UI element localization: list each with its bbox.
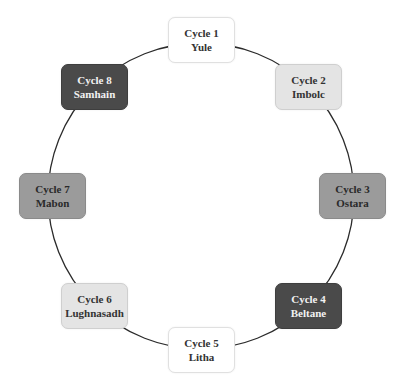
node-name-label: Beltane (291, 306, 326, 320)
node-name-label: Litha (189, 350, 215, 364)
node-name-label: Imbolc (292, 87, 325, 101)
node-cycle-label: Cycle 1 (184, 26, 219, 40)
node-name-label: Ostara (336, 196, 368, 210)
node-cycle-8-samhain: Cycle 8 Samhain (61, 64, 128, 110)
node-name-label: Lughnasadh (65, 306, 124, 320)
node-cycle-label: Cycle 5 (184, 336, 219, 350)
node-cycle-2-imbolc: Cycle 2 Imbolc (275, 64, 342, 110)
node-cycle-label: Cycle 7 (35, 182, 70, 196)
node-cycle-label: Cycle 3 (335, 182, 370, 196)
node-cycle-1-yule: Cycle 1 Yule (168, 17, 235, 63)
node-cycle-4-beltane: Cycle 4 Beltane (275, 283, 342, 329)
node-cycle-6-lughnasadh: Cycle 6 Lughnasadh (61, 283, 128, 329)
node-cycle-label: Cycle 6 (77, 292, 112, 306)
node-name-label: Yule (191, 40, 212, 54)
node-name-label: Mabon (36, 196, 70, 210)
node-cycle-5-litha: Cycle 5 Litha (168, 327, 235, 373)
node-cycle-3-ostara: Cycle 3 Ostara (319, 173, 386, 219)
node-cycle-label: Cycle 2 (291, 73, 326, 87)
node-cycle-7-mabon: Cycle 7 Mabon (19, 173, 86, 219)
node-cycle-label: Cycle 8 (77, 73, 112, 87)
node-name-label: Samhain (74, 87, 116, 101)
node-cycle-label: Cycle 4 (291, 292, 326, 306)
